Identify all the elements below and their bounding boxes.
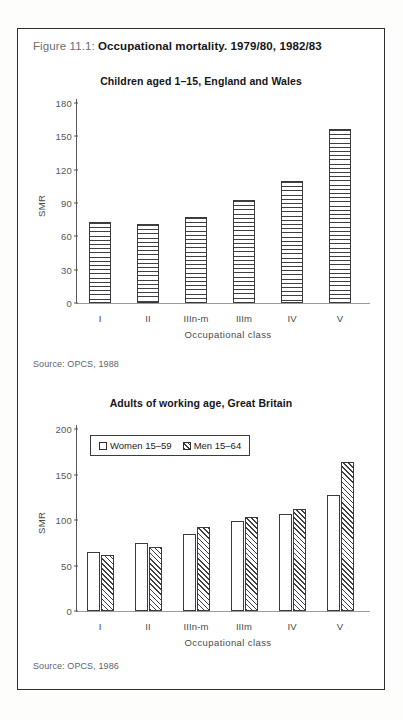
y-axis-tickmark bbox=[74, 103, 78, 104]
y-axis-tickmark bbox=[74, 611, 78, 612]
x-axis-title: Occupational class bbox=[44, 329, 403, 340]
figure-caption: Figure 11.1: Occupational mortality. 197… bbox=[33, 40, 322, 52]
x-axis-tick-label: I bbox=[99, 313, 102, 324]
bar bbox=[329, 129, 351, 303]
x-axis-line bbox=[76, 303, 370, 304]
y-axis-tick-label: 150 bbox=[56, 131, 72, 142]
bar bbox=[245, 517, 258, 611]
bar bbox=[341, 462, 354, 611]
y-axis-tick-label: 0 bbox=[67, 298, 72, 309]
chart-2-source: Source: OPCS, 1986 bbox=[33, 661, 119, 671]
chart-legend: Women 15–59Men 15–64 bbox=[90, 435, 250, 456]
legend-swatch-icon bbox=[183, 442, 191, 450]
y-axis-tick-label: 50 bbox=[61, 560, 72, 571]
bar bbox=[149, 547, 162, 611]
chart-1-source: Source: OPCS, 1988 bbox=[33, 359, 119, 369]
x-axis-title: Occupational class bbox=[44, 637, 403, 648]
y-axis-line bbox=[76, 99, 77, 303]
bar bbox=[87, 552, 100, 611]
y-axis-title: SMR bbox=[36, 512, 47, 534]
bar bbox=[101, 555, 114, 611]
figure-caption-label: Figure 11.1: bbox=[33, 40, 95, 52]
bar bbox=[135, 543, 148, 611]
chart-1-plot-area: 0306090120150180SMRIIIIIIn-mIIImIVVOccup… bbox=[18, 95, 386, 345]
y-axis-tick-label: 60 bbox=[61, 231, 72, 242]
x-axis-tick-label: IV bbox=[287, 621, 296, 632]
y-axis-tickmark bbox=[74, 236, 78, 237]
x-axis-tick-label: V bbox=[337, 621, 343, 632]
bar bbox=[183, 534, 196, 611]
y-axis-tick-label: 120 bbox=[56, 164, 72, 175]
bar bbox=[279, 514, 292, 611]
x-axis-tick-label: I bbox=[99, 621, 102, 632]
chart-2-plot-area: 050100150200SMRIIIIIIn-mIIImIVVOccupatio… bbox=[18, 421, 386, 653]
x-axis-tick-label: IIIm bbox=[236, 313, 252, 324]
figure-page: Figure 11.1: Occupational mortality. 197… bbox=[0, 0, 403, 720]
bar bbox=[185, 217, 207, 303]
legend-item[interactable]: Women 15–59 bbox=[99, 440, 172, 451]
y-axis-tickmark bbox=[74, 429, 78, 430]
x-axis-tick-label: II bbox=[145, 313, 150, 324]
x-axis-tick-label: IIIn-m bbox=[184, 621, 209, 632]
y-axis-tick-label: 100 bbox=[56, 515, 72, 526]
bar bbox=[231, 521, 244, 611]
bar bbox=[233, 200, 255, 303]
y-axis-tick-label: 180 bbox=[56, 98, 72, 109]
y-axis-tickmark bbox=[74, 520, 78, 521]
y-axis-tick-label: 90 bbox=[61, 198, 72, 209]
y-axis-tick-label: 150 bbox=[56, 469, 72, 480]
legend-item[interactable]: Men 15–64 bbox=[183, 440, 242, 451]
y-axis-tickmark bbox=[74, 565, 78, 566]
y-axis-tick-label: 0 bbox=[67, 606, 72, 617]
x-axis-tick-label: IIIn-m bbox=[184, 313, 209, 324]
figure-frame: Figure 11.1: Occupational mortality. 197… bbox=[17, 28, 385, 690]
bar bbox=[327, 495, 340, 611]
bar bbox=[293, 509, 306, 611]
y-axis-tick-label: 30 bbox=[61, 264, 72, 275]
x-axis-line bbox=[76, 611, 370, 612]
y-axis-tickmark bbox=[74, 269, 78, 270]
y-axis-tickmark bbox=[74, 474, 78, 475]
legend-label: Women 15–59 bbox=[110, 440, 172, 451]
y-axis-line bbox=[76, 425, 77, 611]
y-axis-tickmark bbox=[74, 169, 78, 170]
x-axis-tick-label: II bbox=[145, 621, 150, 632]
x-axis-tick-label: V bbox=[337, 313, 343, 324]
y-axis-tickmark bbox=[74, 203, 78, 204]
y-axis-tickmark bbox=[74, 136, 78, 137]
y-axis-tickmark bbox=[74, 303, 78, 304]
bar bbox=[89, 222, 111, 303]
y-axis-title: SMR bbox=[36, 195, 47, 217]
x-axis-tick-label: IV bbox=[287, 313, 296, 324]
legend-swatch-icon bbox=[99, 442, 107, 450]
bar bbox=[281, 181, 303, 303]
chart-2-title: Adults of working age, Great Britain bbox=[18, 397, 384, 409]
x-axis-tick-label: IIIm bbox=[236, 621, 252, 632]
y-axis-tick-label: 200 bbox=[56, 424, 72, 435]
bar bbox=[197, 527, 210, 611]
legend-label: Men 15–64 bbox=[194, 440, 242, 451]
bar bbox=[137, 224, 159, 303]
chart-1-title: Children aged 1–15, England and Wales bbox=[18, 75, 384, 87]
figure-caption-title: Occupational mortality. 1979/80, 1982/83 bbox=[98, 40, 322, 52]
